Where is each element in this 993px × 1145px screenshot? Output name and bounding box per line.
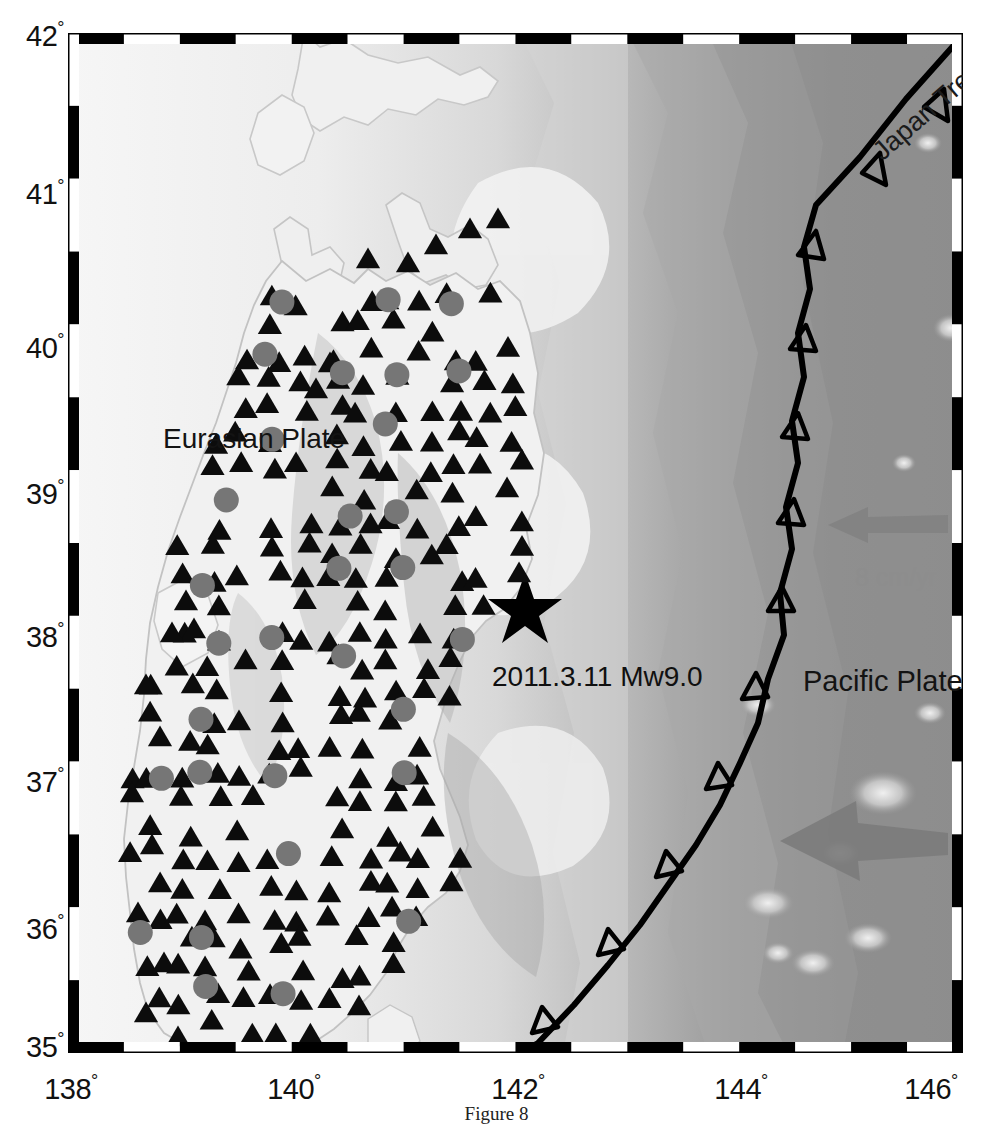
lon-tick-144: 144° [681,1072,801,1104]
lat-tick-35: 35° [0,1030,64,1062]
lat-tick-36: 36° [0,912,64,944]
station-circle-icon[interactable] [392,760,417,785]
station-circle-icon[interactable] [446,358,471,383]
lon-tick-142: 142° [458,1072,578,1104]
station-circle-icon[interactable] [190,573,215,598]
station-circle-icon[interactable] [376,287,401,312]
station-circle-icon[interactable] [271,981,296,1006]
station-circle-icon[interactable] [193,974,218,999]
station-circle-icon[interactable] [450,627,475,652]
lat-tick-37: 37° [0,765,64,797]
map-canvas [68,33,963,1053]
station-circle-icon[interactable] [390,555,415,580]
plate-motion-rate-label: 8 cm/yr [855,565,937,590]
station-circle-icon[interactable] [276,841,301,866]
lat-tick-38: 38° [0,620,64,652]
station-circle-icon[interactable] [252,342,277,367]
pacific-plate-label: Pacific Plate [803,667,963,696]
lat-tick-40: 40° [0,331,64,363]
station-circle-icon[interactable] [149,766,174,791]
station-circle-icon[interactable] [338,504,363,529]
earthquake-label: 2011.3.11 Mw9.0 [492,663,703,691]
station-circle-icon[interactable] [259,625,284,650]
lat-tick-42: 42° [0,19,64,51]
figure-caption: Figure 8 [0,1103,993,1125]
station-circle-icon[interactable] [206,631,231,656]
station-circle-icon[interactable] [391,697,416,722]
station-circle-icon[interactable] [384,362,409,387]
station-circle-icon[interactable] [326,556,351,581]
station-circle-icon[interactable] [330,360,355,385]
station-circle-icon[interactable] [189,707,214,732]
station-circle-icon[interactable] [128,920,153,945]
station-circle-icon[interactable] [214,487,239,512]
station-circle-icon[interactable] [187,760,212,785]
lat-tick-41: 41° [0,177,64,209]
station-circle-icon[interactable] [439,291,464,316]
station-circle-icon[interactable] [396,909,421,934]
eurasian-plate-label: Eurasian Plate [163,425,345,453]
station-circle-icon[interactable] [384,499,409,524]
station-circle-icon[interactable] [269,290,294,315]
map-plot-area[interactable]: Eurasian Plate Pacific Plate Japan Trenc… [68,33,963,1053]
figure-root: 42° 41° 40° 39° 38° 37° 36° 35° 138° 140… [0,0,993,1145]
lon-tick-140: 140° [234,1072,354,1104]
lon-tick-138: 138° [11,1072,131,1104]
lat-tick-39: 39° [0,477,64,509]
station-circle-icon[interactable] [331,643,356,668]
station-circle-icon[interactable] [373,411,398,436]
station-circle-icon[interactable] [262,763,287,788]
lon-tick-146: 146° [871,1072,991,1104]
station-circle-icon[interactable] [189,925,214,950]
